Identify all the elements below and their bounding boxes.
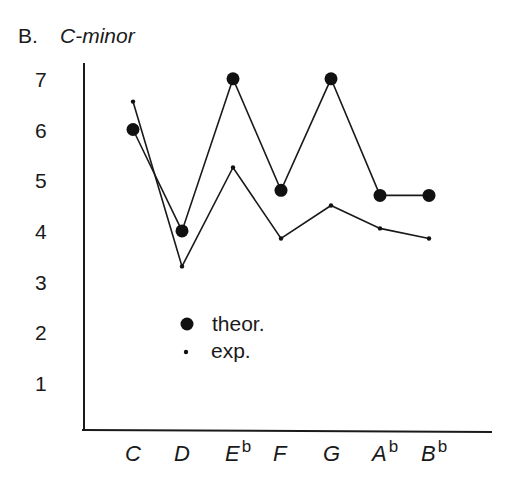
panel-label: B. [18,24,38,47]
legend-theor-marker-icon [181,318,194,331]
data-point-marker-icon [176,224,189,237]
legend-exp-label: exp. [211,339,251,362]
x-tick-label: F [273,441,288,466]
x-tick-label: Ab [370,437,398,466]
data-point-marker-icon [325,72,338,85]
chart-title: C-minor [60,24,136,47]
series-theor [127,72,436,237]
x-axis [82,430,492,432]
y-tick-label: 5 [35,169,47,192]
y-tick-label: 7 [35,68,47,91]
y-tick-label: 2 [35,321,47,344]
legend: theor. exp. [181,312,265,362]
y-tick-label: 3 [35,271,47,294]
x-tick-label: Bb [421,437,447,466]
y-tick-label: 1 [35,372,47,395]
data-point-marker-icon [423,189,436,202]
series-line [133,79,429,231]
line-chart: B. C-minor 1234567 CDEbFGAbBb theor. exp… [0,0,517,487]
legend-exp-marker-icon [184,350,188,354]
x-tick-label: Eb [225,437,251,466]
data-point-marker-icon [180,264,184,268]
legend-theor-label: theor. [212,312,265,335]
data-point-marker-icon [279,236,283,240]
x-tick-labels: CDEbFGAbBb [125,437,447,466]
data-point-marker-icon [275,184,288,197]
data-point-marker-icon [329,203,333,207]
y-tick-label: 6 [35,119,47,142]
y-tick-labels: 1234567 [35,68,47,395]
y-tick-label: 4 [35,220,47,243]
data-point-marker-icon [127,123,140,136]
data-point-marker-icon [131,99,135,103]
x-tick-label: D [174,441,190,466]
x-tick-label: G [323,441,340,466]
x-tick-label: C [125,441,141,466]
data-point-marker-icon [378,226,382,230]
data-point-marker-icon [227,72,240,85]
data-point-marker-icon [427,236,431,240]
data-point-marker-icon [374,189,387,202]
data-point-marker-icon [231,165,235,169]
